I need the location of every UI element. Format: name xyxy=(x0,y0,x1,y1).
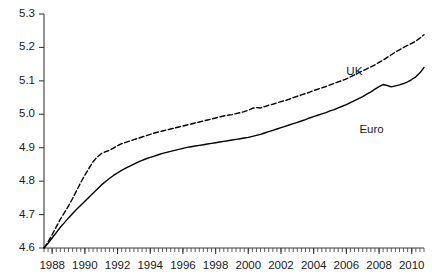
series-line-euro xyxy=(44,67,424,248)
y-axis-tick-label: 4.9 xyxy=(0,142,35,154)
x-axis-minor-ticks xyxy=(44,248,424,252)
x-axis-tick-label: 2004 xyxy=(301,260,327,272)
x-axis-tick-label: 2006 xyxy=(334,260,360,272)
x-axis-tick-label: 2008 xyxy=(366,260,392,272)
series-label-euro: Euro xyxy=(359,124,383,136)
x-axis-tick-label: 1990 xyxy=(72,260,98,272)
x-axis-tick-label: 1994 xyxy=(137,260,163,272)
chart-plot-area xyxy=(0,0,432,280)
x-axis-tick-label: 1998 xyxy=(203,260,229,272)
x-axis-tick-label: 1988 xyxy=(39,260,65,272)
x-axis-tick-label: 2000 xyxy=(236,260,262,272)
y-axis-tick-label: 5.1 xyxy=(0,75,35,87)
chart-container: 4.64.74.84.95.05.15.25.3 198819901992199… xyxy=(0,0,432,280)
y-axis-tick-label: 5.2 xyxy=(0,42,35,54)
y-axis-ticks xyxy=(39,14,44,248)
y-axis-tick-label: 4.7 xyxy=(0,209,35,221)
y-axis-tick-label: 5.3 xyxy=(0,8,35,20)
series-line-uk xyxy=(44,35,424,248)
x-axis-tick-label: 2010 xyxy=(399,260,425,272)
x-axis-tick-label: 2002 xyxy=(268,260,294,272)
data-series-group xyxy=(44,35,424,248)
y-axis-tick-label: 4.8 xyxy=(0,175,35,187)
y-axis-tick-label: 4.6 xyxy=(0,242,35,254)
x-axis-tick-label: 1992 xyxy=(105,260,131,272)
x-axis-tick-label: 1996 xyxy=(170,260,196,272)
y-axis-tick-label: 5.0 xyxy=(0,109,35,121)
series-label-uk: UK xyxy=(346,66,362,78)
